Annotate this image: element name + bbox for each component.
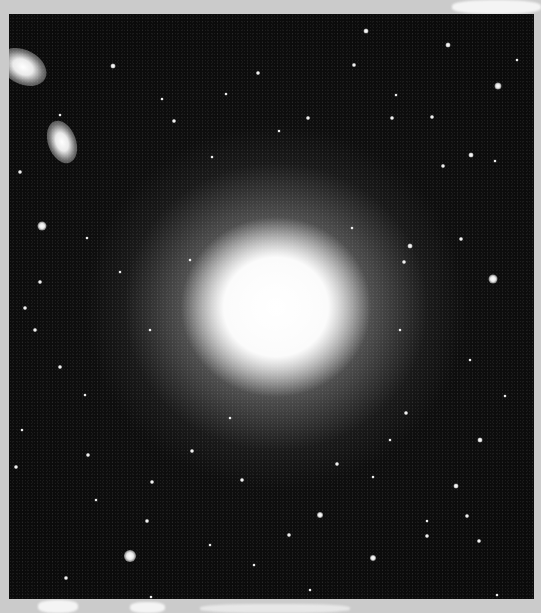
galaxy-photograph [9,14,534,599]
scan-artifact [452,0,541,14]
scan-artifact [200,604,350,613]
scan-artifact [38,600,78,613]
scan-artifact [130,602,165,613]
film-grain [9,14,534,599]
